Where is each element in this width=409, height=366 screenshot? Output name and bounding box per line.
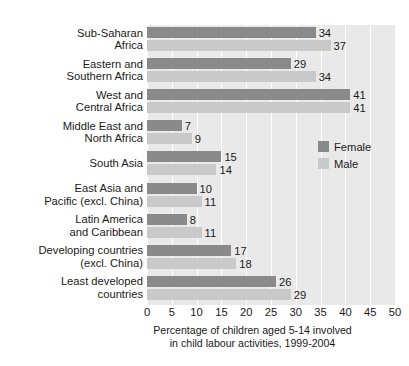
category-label-1: Eastern and Southern Africa <box>0 58 143 83</box>
category-label-5: East Asia and Pacific (excl. China) <box>0 182 143 207</box>
x-tick-40: 40 <box>339 305 351 319</box>
bar-female-7 <box>147 245 231 256</box>
legend-item-female: Female <box>318 139 396 154</box>
legend-swatch-male <box>318 158 329 169</box>
bar-female-8 <box>147 276 276 287</box>
bar-male-3 <box>147 133 192 144</box>
bar-female-5 <box>147 183 197 194</box>
bar-male-7 <box>147 258 236 269</box>
bar-value-female-4: 15 <box>224 152 236 163</box>
bar-male-8 <box>147 289 291 300</box>
x-tick-50: 50 <box>389 305 401 319</box>
bar-value-male-6: 11 <box>205 228 217 239</box>
x-tick-5: 5 <box>169 305 175 319</box>
x-tick-15: 15 <box>215 305 227 319</box>
child-labour-bar-chart: Sub-Saharan AfricaEastern and Southern A… <box>0 0 409 366</box>
x-tick-0: 0 <box>144 305 150 319</box>
x-tick-30: 30 <box>290 305 302 319</box>
bar-value-male-2: 41 <box>353 103 365 114</box>
category-label-0: Sub-Saharan Africa <box>0 27 143 52</box>
bar-male-2 <box>147 102 350 113</box>
cropped-title-sliver <box>0 0 409 9</box>
bar-value-male-1: 34 <box>319 72 331 83</box>
category-label-4: South Asia <box>0 157 143 169</box>
x-axis-caption-line-2: in child labour activities, 1999-2004 <box>110 337 395 350</box>
bar-value-male-7: 18 <box>239 259 251 270</box>
bar-value-female-5: 10 <box>200 184 212 195</box>
bar-female-3 <box>147 120 182 131</box>
bar-value-male-8: 29 <box>294 290 306 301</box>
category-axis: Sub-Saharan AfricaEastern and Southern A… <box>0 25 143 305</box>
bar-female-2 <box>147 89 350 100</box>
bar-female-4 <box>147 151 221 162</box>
bar-value-male-5: 11 <box>205 197 217 208</box>
bar-male-5 <box>147 196 202 207</box>
bar-male-1 <box>147 71 316 82</box>
legend-label-female: Female <box>334 141 371 153</box>
x-tick-45: 45 <box>364 305 376 319</box>
legend-swatch-female <box>318 141 329 152</box>
bar-value-female-1: 29 <box>294 59 306 70</box>
bar-female-1 <box>147 58 291 69</box>
bar-value-female-8: 26 <box>279 277 291 288</box>
legend: FemaleMale <box>318 139 396 173</box>
bar-value-female-7: 17 <box>234 246 246 257</box>
bar-value-female-6: 8 <box>190 215 196 226</box>
bar-value-male-0: 37 <box>334 41 346 52</box>
bar-value-female-3: 7 <box>185 121 191 132</box>
category-label-8: Least developed countries <box>0 275 143 300</box>
legend-item-male: Male <box>318 156 396 171</box>
category-label-3: Middle East and North Africa <box>0 120 143 145</box>
bar-female-0 <box>147 27 316 38</box>
category-label-2: West and Central Africa <box>0 89 143 114</box>
bar-female-6 <box>147 214 187 225</box>
bar-male-6 <box>147 227 202 238</box>
bar-value-female-0: 34 <box>319 28 331 39</box>
bar-value-male-3: 9 <box>195 134 201 145</box>
x-tick-20: 20 <box>240 305 252 319</box>
bar-male-0 <box>147 40 331 51</box>
x-axis-caption-line-1: Percentage of children aged 5-14 involve… <box>110 324 395 337</box>
legend-label-male: Male <box>334 158 358 170</box>
category-label-7: Developing countries (excl. China) <box>0 244 143 269</box>
x-axis-caption: Percentage of children aged 5-14 involve… <box>110 324 395 350</box>
x-axis: 05101520253035404550 <box>147 305 395 321</box>
x-tick-25: 25 <box>265 305 277 319</box>
bar-value-male-4: 14 <box>219 165 231 176</box>
bar-male-4 <box>147 164 216 175</box>
category-label-6: Latin America and Caribbean <box>0 213 143 238</box>
bar-value-female-2: 41 <box>353 90 365 101</box>
x-tick-35: 35 <box>314 305 326 319</box>
x-tick-10: 10 <box>190 305 202 319</box>
